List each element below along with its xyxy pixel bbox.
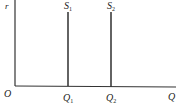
x-axis <box>15 86 176 87</box>
y-axis-label: r <box>5 1 9 11</box>
s1-label: S1 <box>64 0 72 12</box>
diagram-canvas: r S1 S2 O Q1 Q2 Q <box>0 0 178 108</box>
x-axis-label: Q <box>168 91 176 102</box>
q2-label: Q2 <box>106 92 116 104</box>
q1-label: Q1 <box>63 92 73 104</box>
s2-label: S2 <box>107 0 115 12</box>
origin-label: O <box>4 88 11 99</box>
